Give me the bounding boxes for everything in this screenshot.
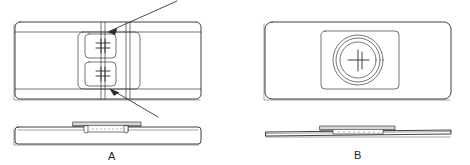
elev-b-pocket — [333, 130, 383, 134]
drawing-canvas: A — [0, 0, 470, 165]
elev-a-leg-tab-left — [84, 126, 88, 133]
elev-b-perforation-row — [338, 131, 380, 133]
view-label-a: A — [108, 150, 116, 162]
plan-a-upper-cell — [85, 34, 116, 58]
technical-drawing-figure: A — [0, 0, 470, 165]
plan-a-lower-cell — [85, 62, 116, 86]
view-label-b: B — [354, 149, 362, 161]
elev-b-raised-strip — [320, 126, 395, 130]
plan-view-b — [264, 22, 451, 100]
elev-a-leg-tab-right — [124, 126, 128, 133]
side-elevation-b — [266, 126, 451, 137]
elev-a-raised-strip — [73, 122, 141, 126]
side-elevation-a — [14, 122, 201, 145]
view-a-group: A — [14, 1, 201, 162]
plan-view-a — [14, 22, 201, 100]
view-b-group: B — [264, 22, 451, 161]
